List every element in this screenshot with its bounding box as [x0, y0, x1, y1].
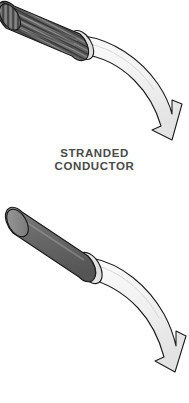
stranded-conductor-illustration — [0, 0, 189, 148]
solid-conductor-illustration — [0, 200, 189, 380]
caption-stranded-conductor: STRANDED CONDUCTOR — [0, 147, 189, 173]
stranded-insulation-jacket — [80, 36, 182, 140]
caption-line-1: STRANDED — [0, 147, 189, 160]
caption-line-2: CONDUCTOR — [0, 160, 189, 173]
conductor-comparison-figure: STRANDED CONDUCTOR — [0, 0, 189, 403]
figure-solid-conductor: SOLID CONDUCTOR — [0, 200, 189, 403]
figure-stranded-conductor: STRANDED CONDUCTOR — [0, 0, 189, 200]
